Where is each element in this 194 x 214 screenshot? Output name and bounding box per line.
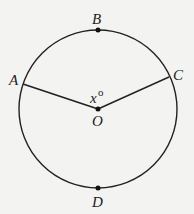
label-o: O (92, 113, 103, 129)
radius-oa (23, 84, 98, 109)
label-b: B (92, 11, 101, 27)
point-b (96, 28, 101, 33)
circle-diagram: B A C O D x o (0, 0, 194, 214)
label-d: D (91, 194, 103, 210)
radius-oc (98, 77, 169, 109)
angle-var: x (89, 90, 97, 106)
label-c: C (173, 67, 184, 83)
label-a: A (8, 72, 19, 88)
point-d (96, 186, 101, 191)
angle-degree: o (98, 86, 104, 98)
point-o (96, 107, 101, 112)
